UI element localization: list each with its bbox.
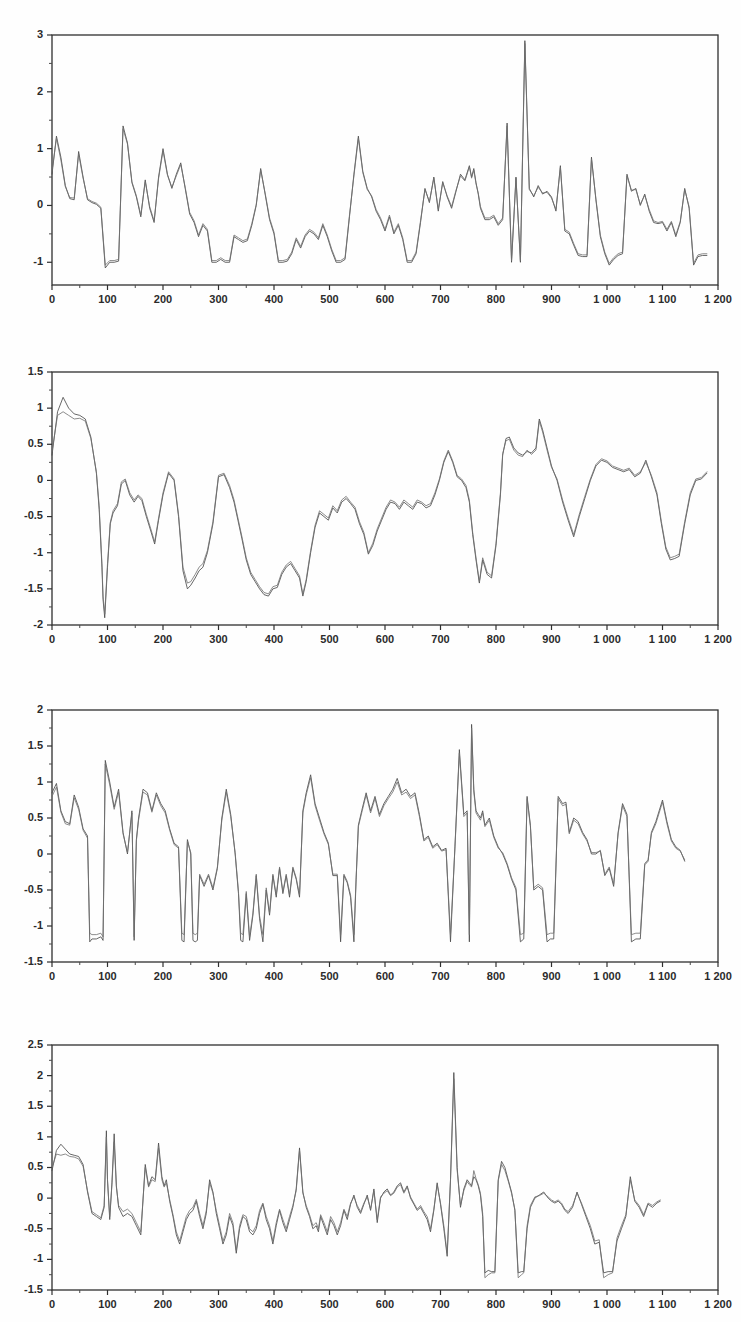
series-line-fitted [52, 728, 685, 937]
x-tick-label: 200 [154, 633, 172, 645]
x-tick-label: 100 [98, 293, 116, 305]
x-axis: 01002003004005006007008009001 0001 1001 … [49, 962, 732, 982]
x-tick-label: 0 [49, 1298, 55, 1310]
chart-panel-3: -1.5-1-0.500.511.52010020030040050060070… [0, 662, 741, 995]
y-tick-label: 2.5 [28, 1038, 43, 1050]
x-tick-label: 1 100 [649, 633, 677, 645]
chart-panel-2: -2-1.5-1-0.500.511.501002003004005006007… [0, 330, 741, 662]
line-chart-4: -1.5-1-0.500.511.522.5010020030040050060… [0, 995, 741, 1322]
x-tick-label: 400 [265, 1298, 283, 1310]
x-tick-label: 600 [376, 633, 394, 645]
x-tick-label: 600 [376, 293, 394, 305]
series-line-observed [52, 397, 707, 617]
y-tick-label: 0 [37, 847, 43, 859]
y-tick-label: 1 [37, 775, 43, 787]
x-tick-label: 100 [98, 633, 116, 645]
x-tick-label: 500 [320, 293, 338, 305]
x-tick-label: 1 200 [704, 1298, 732, 1310]
x-tick-label: 700 [431, 970, 449, 982]
y-tick-label: 3 [37, 28, 43, 40]
y-tick-label: 2 [37, 1069, 43, 1081]
x-tick-label: 0 [49, 970, 55, 982]
x-tick-label: 800 [487, 970, 505, 982]
y-tick-label: -1.5 [24, 955, 43, 967]
figure-page: -1012301002003004005006007008009001 0001… [0, 0, 741, 1322]
y-tick-label: 1 [37, 1130, 43, 1142]
y-tick-label: -1 [33, 919, 43, 931]
y-tick-label: 1.5 [28, 1099, 43, 1111]
x-tick-label: 700 [431, 293, 449, 305]
series-line-fitted [52, 1079, 660, 1278]
series-line-observed [52, 1073, 660, 1273]
x-tick-label: 900 [542, 1298, 560, 1310]
x-tick-label: 200 [154, 970, 172, 982]
series-line-observed [52, 724, 685, 941]
x-tick-label: 400 [265, 293, 283, 305]
y-tick-label: 1.5 [28, 365, 43, 377]
y-tick-label: -0.5 [24, 509, 43, 521]
y-tick-label: -0.5 [24, 883, 43, 895]
y-tick-label: 0 [37, 473, 43, 485]
y-tick-label: -1 [33, 546, 43, 558]
y-tick-label: 2 [37, 85, 43, 97]
x-tick-label: 1 000 [593, 633, 621, 645]
series-line-fitted [52, 44, 707, 266]
x-tick-label: 300 [209, 293, 227, 305]
line-chart-1: -1012301002003004005006007008009001 0001… [0, 0, 741, 330]
y-tick-label: 0 [37, 1191, 43, 1203]
x-tick-label: 1 200 [704, 633, 732, 645]
x-tick-label: 900 [542, 293, 560, 305]
x-tick-label: 200 [154, 293, 172, 305]
x-tick-label: 900 [542, 633, 560, 645]
x-tick-label: 0 [49, 293, 55, 305]
x-tick-label: 400 [265, 970, 283, 982]
x-tick-label: 500 [320, 1298, 338, 1310]
x-tick-label: 100 [98, 1298, 116, 1310]
y-tick-label: -2 [33, 618, 43, 630]
x-tick-label: 1 000 [593, 293, 621, 305]
plot-frame [52, 372, 718, 625]
x-tick-label: 100 [98, 970, 116, 982]
y-axis: -10123 [33, 28, 52, 267]
y-axis: -1.5-1-0.500.511.52 [24, 703, 52, 967]
y-tick-label: 0.5 [28, 1160, 43, 1172]
y-axis: -1.5-1-0.500.511.522.5 [24, 1038, 52, 1295]
x-tick-label: 1 200 [704, 293, 732, 305]
y-tick-label: 0 [37, 198, 43, 210]
x-tick-label: 800 [487, 633, 505, 645]
y-tick-label: -1 [33, 1252, 43, 1264]
y-tick-label: -1 [33, 255, 43, 267]
x-tick-label: 1 100 [649, 970, 677, 982]
chart-panel-1: -1012301002003004005006007008009001 0001… [0, 0, 741, 330]
series-line-observed [52, 41, 707, 268]
y-tick-label: -1.5 [24, 582, 43, 594]
y-tick-label: 2 [37, 703, 43, 715]
x-tick-label: 400 [265, 633, 283, 645]
y-tick-label: 0.5 [28, 437, 43, 449]
x-tick-label: 700 [431, 1298, 449, 1310]
x-tick-label: 800 [487, 293, 505, 305]
y-tick-label: -0.5 [24, 1222, 43, 1234]
x-tick-label: 1 000 [593, 970, 621, 982]
x-axis: 01002003004005006007008009001 0001 1001 … [49, 285, 732, 305]
x-tick-label: 300 [209, 1298, 227, 1310]
y-tick-label: 1 [37, 401, 43, 413]
x-tick-label: 300 [209, 970, 227, 982]
x-tick-label: 1 200 [704, 970, 732, 982]
y-axis: -2-1.5-1-0.500.511.5 [24, 365, 52, 630]
line-chart-3: -1.5-1-0.500.511.52010020030040050060070… [0, 662, 741, 995]
x-tick-label: 800 [487, 1298, 505, 1310]
series-line-fitted [52, 412, 707, 614]
x-tick-label: 600 [376, 1298, 394, 1310]
x-tick-label: 1 000 [593, 1298, 621, 1310]
y-tick-label: 1 [37, 142, 43, 154]
x-tick-label: 0 [49, 633, 55, 645]
x-tick-label: 500 [320, 633, 338, 645]
x-tick-label: 200 [154, 1298, 172, 1310]
x-tick-label: 500 [320, 970, 338, 982]
x-tick-label: 600 [376, 970, 394, 982]
x-tick-label: 700 [431, 633, 449, 645]
x-tick-label: 900 [542, 970, 560, 982]
plot-frame [52, 35, 718, 285]
x-axis: 01002003004005006007008009001 0001 1001 … [49, 1290, 732, 1310]
